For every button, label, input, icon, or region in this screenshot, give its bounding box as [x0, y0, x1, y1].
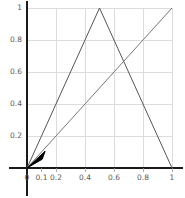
series-cobweb-wedge: [27, 151, 45, 168]
x-tick-label: 1: [170, 174, 175, 182]
x-tick-label: 0.2: [50, 174, 62, 182]
data-series-group: [27, 8, 172, 168]
y-tick-label: 0.6: [2, 68, 22, 76]
y-tick-label: 0.8: [2, 36, 22, 44]
x-tick-label: 0: [25, 174, 30, 182]
y-tick-label: 0.4: [2, 100, 22, 108]
x-tick-label: 0.8: [137, 174, 149, 182]
chart-container: 00.10.20.40.60.81 0.20.40.60.81: [0, 0, 185, 198]
series-identity-line: [27, 8, 172, 168]
x-tick-label: 0.4: [79, 174, 91, 182]
chart-canvas: [0, 0, 185, 198]
x-tick-label: 0.1: [36, 174, 48, 182]
y-tick-label: 1: [2, 4, 22, 12]
axes-group: [9, 1, 183, 196]
y-tick-label: 0.2: [2, 132, 22, 140]
x-tick-label: 0.6: [108, 174, 120, 182]
